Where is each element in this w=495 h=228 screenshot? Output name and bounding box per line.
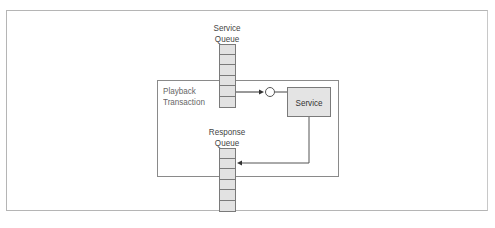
arrow-head-icon [237, 161, 242, 166]
arrow-head-icon [259, 90, 264, 95]
service-to-response-line [239, 117, 309, 163]
dispatcher-circle-icon [266, 88, 275, 97]
connector-lines [0, 0, 495, 228]
